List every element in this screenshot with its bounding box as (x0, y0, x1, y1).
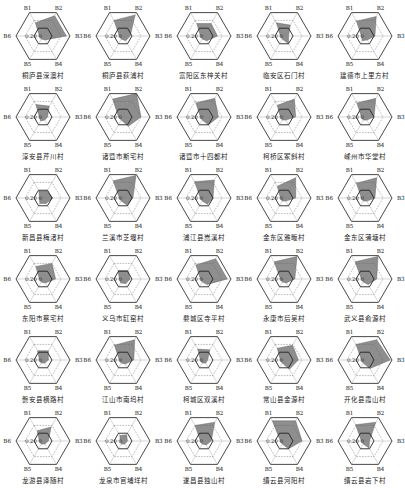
axis-label-b4: B4 (135, 61, 143, 67)
axis-label-b2: B2 (135, 5, 143, 11)
axis-label-b4: B4 (376, 61, 384, 67)
axis-label-b1: B1 (104, 410, 112, 416)
tick-label: 0.20 (347, 195, 359, 201)
tick-label: 0 (360, 195, 363, 201)
axis-label-b6: B6 (245, 114, 253, 120)
axis-label-b1: B1 (104, 329, 112, 335)
radar-plot: 0.200B1B2B3B4B5B6 (83, 81, 163, 162)
axis-label-b6: B6 (325, 438, 333, 444)
axis-label-b3: B3 (316, 33, 324, 39)
village-label: 缙云县河阳村 (244, 477, 324, 485)
tick-label: 0.20 (25, 438, 37, 444)
axis-label-b6: B6 (164, 276, 172, 282)
radar-plot: 0.200B1B2B3B4B5B6 (325, 243, 405, 324)
axis-label-b4: B4 (55, 385, 63, 391)
axis-label-b1: B1 (345, 5, 353, 11)
tick-label: 0.20 (25, 276, 37, 282)
axis-label-b1: B1 (265, 5, 273, 11)
village-label: 淳安县芹川村 (3, 153, 83, 161)
axis-label-b2: B2 (135, 329, 143, 335)
axis-label-b2: B2 (296, 5, 304, 11)
axis-label-b5: B5 (184, 223, 192, 229)
radar-chart: 0.200B1B2B3B4B5B6常山县金源村 (244, 324, 324, 405)
radar-chart: 0.200B1B2B3B4B5B6缙云县岩下村 (325, 405, 405, 486)
axis-label-b4: B4 (296, 61, 304, 67)
radar-chart: 0.200B1B2B3B4B5B6遂昌县独山村 (164, 405, 244, 486)
axis-label-b5: B5 (24, 223, 32, 229)
axis-label-b1: B1 (184, 329, 192, 335)
radar-chart: 0.200B1B2B3B4B5B6诸暨市十四都村 (164, 81, 244, 162)
axis-label-b6: B6 (164, 195, 172, 201)
radar-chart: 0.200B1B2B3B4B5B6龙泉市官埔垟村 (83, 405, 163, 486)
axis-label-b2: B2 (215, 329, 223, 335)
axis-label-b3: B3 (316, 195, 324, 201)
axis-label-b4: B4 (55, 223, 63, 229)
radar-plot: 0.200B1B2B3B4B5B6 (325, 81, 405, 162)
axis-label-b5: B5 (345, 142, 353, 148)
tick-label: 0.20 (25, 114, 37, 120)
axis-label-b5: B5 (265, 223, 273, 229)
axis-label-b1: B1 (345, 410, 353, 416)
tick-label: 0 (119, 33, 122, 39)
radar-plot: 0.200B1B2B3B4B5B6 (164, 324, 244, 405)
radar-chart: 0.200B1B2B3B4B5B6桐庐县深澳村 (3, 0, 83, 81)
village-label: 义乌市缸窑村 (83, 315, 163, 323)
tick-label: 0 (280, 276, 283, 282)
axis-label-b2: B2 (296, 410, 304, 416)
village-label: 诸暨市十四都村 (164, 153, 244, 161)
axis-label-b2: B2 (215, 410, 223, 416)
axis-label-b2: B2 (376, 86, 384, 92)
radar-plot: 0.200B1B2B3B4B5B6 (244, 243, 324, 324)
axis-label-b2: B2 (135, 167, 143, 173)
axis-label-b6: B6 (164, 438, 172, 444)
axis-label-b4: B4 (135, 223, 143, 229)
tick-label: 0.20 (347, 438, 359, 444)
tick-label: 0 (199, 276, 202, 282)
axis-label-b5: B5 (265, 61, 273, 67)
axis-label-b1: B1 (24, 410, 32, 416)
radar-plot: 0.200B1B2B3B4B5B6 (325, 0, 405, 81)
radar-chart: 0.200B1B2B3B4B5B6婺城区寺平村 (164, 243, 244, 324)
axis-label-b4: B4 (376, 466, 384, 472)
radar-plot: 0.200B1B2B3B4B5B6 (3, 0, 83, 81)
axis-label-b1: B1 (104, 86, 112, 92)
axis-label-b3: B3 (75, 357, 83, 363)
tick-label: 0 (119, 195, 122, 201)
village-label: 临安区石门村 (244, 72, 324, 80)
axis-label-b2: B2 (296, 167, 304, 173)
tick-label: 0.20 (347, 114, 359, 120)
radar-chart: 0.200B1B2B3B4B5B6柯城区双溪村 (164, 324, 244, 405)
axis-label-b6: B6 (245, 195, 253, 201)
axis-label-b3: B3 (236, 195, 244, 201)
axis-label-b1: B1 (345, 167, 353, 173)
axis-label-b4: B4 (376, 385, 384, 391)
axis-label-b5: B5 (265, 466, 273, 472)
tick-label: 0 (199, 33, 202, 39)
axis-label-b5: B5 (345, 223, 353, 229)
axis-label-b3: B3 (236, 33, 244, 39)
axis-label-b5: B5 (24, 61, 32, 67)
radar-chart: 0.200B1B2B3B4B5B6龙游县泽随村 (3, 405, 83, 486)
axis-label-b1: B1 (184, 86, 192, 92)
radar-chart: 0.200B1B2B3B4B5B6武义县俞源村 (325, 243, 405, 324)
radar-chart: 0.200B1B2B3B4B5B6富阳区东梓关村 (164, 0, 244, 81)
radar-plot: 0.200B1B2B3B4B5B6 (83, 324, 163, 405)
radar-chart: 0.200B1B2B3B4B5B6浦江县嵩溪村 (164, 162, 244, 243)
axis-label-b6: B6 (245, 438, 253, 444)
tick-label: 0 (199, 114, 202, 120)
axis-label-b5: B5 (104, 385, 112, 391)
village-label: 开化县霞山村 (325, 396, 405, 404)
tick-label: 0 (39, 195, 42, 201)
axis-label-b3: B3 (397, 276, 405, 282)
axis-label-b3: B3 (75, 438, 83, 444)
axis-label-b6: B6 (84, 357, 92, 363)
axis-label-b3: B3 (236, 276, 244, 282)
tick-label: 0.20 (25, 33, 37, 39)
axis-label-b2: B2 (376, 5, 384, 11)
axis-label-b4: B4 (376, 304, 384, 310)
axis-label-b4: B4 (215, 304, 223, 310)
tick-label: 0 (39, 276, 42, 282)
axis-label-b3: B3 (155, 195, 163, 201)
tick-label: 0.20 (186, 438, 198, 444)
radar-plot: 0.200B1B2B3B4B5B6 (244, 405, 324, 486)
